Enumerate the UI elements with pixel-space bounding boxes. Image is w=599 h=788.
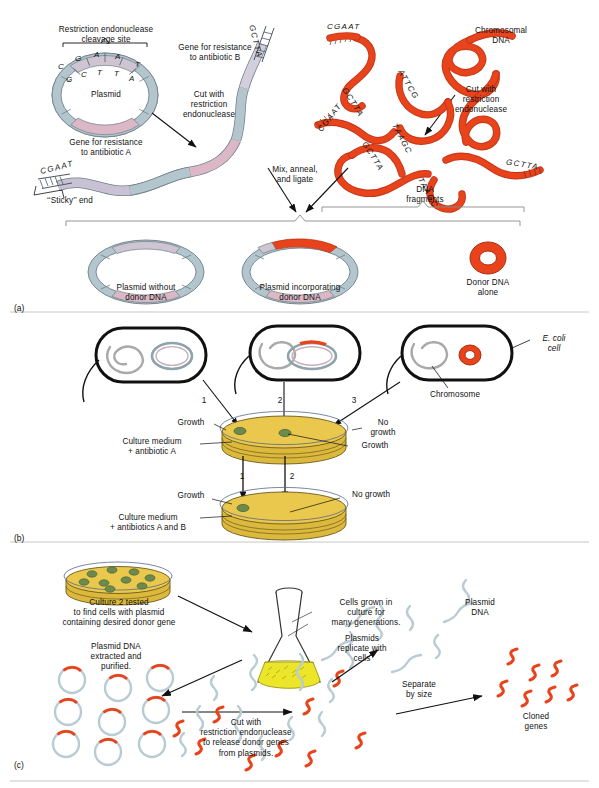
plasmid-dna-label: Plasmid DNA [452, 598, 508, 618]
cut-chromosome-label: Cut with restriction endonuclease [440, 85, 522, 116]
transfer-number-2: 2 [288, 472, 296, 482]
plasmid-circle [143, 697, 169, 723]
plasmid-extracted-label: Plasmid DNA extracted and purified. [62, 642, 170, 673]
plasmid-without-donor-label: Plasmid without donor DNA [98, 283, 194, 303]
base-bot-5: A [129, 74, 134, 83]
base-top-3: A [94, 50, 99, 59]
chromosome-label: Chromosome [418, 390, 492, 400]
donor-dna-alone-label: Donor DNA alone [452, 278, 524, 298]
cloned-genes-label: Cloned genes [508, 712, 564, 732]
transfer-number-1: 1 [238, 472, 246, 482]
plasmid-circle [55, 699, 81, 725]
cut-plasmid-label: Cut with restriction endonuclease [166, 90, 252, 121]
gene-a-label: Gene for resistance to antibiotic A [32, 138, 180, 158]
culture-flask [258, 588, 320, 688]
figure-canvas: (a) (b) (c) Restriction endonuclease cle… [0, 0, 599, 788]
ecoli-cell-label: E. coli cell [528, 334, 580, 354]
plate-a-no-growth-label: No growth [360, 418, 406, 438]
cloned-genes-cluster [498, 649, 577, 706]
base-bot-2: C [81, 70, 87, 79]
arrow-number-3: 3 [350, 396, 358, 406]
panel-label-c: (c) [14, 760, 24, 770]
sticky-end-label: ‘‘Sticky’’ end [30, 196, 110, 206]
plate-ab-no-growth-label: No growth [340, 490, 402, 500]
fragment-seq-1: CGAAT [327, 22, 360, 31]
products-bracket [66, 215, 520, 226]
plate-antibiotics-a-b [200, 487, 348, 540]
plate-antibiotic-a [200, 411, 362, 464]
flask-grown-label: Cells grown in culture for many generati… [322, 598, 410, 629]
ecoli-cell-2 [235, 326, 360, 394]
panel-label-b: (b) [14, 533, 24, 543]
mix-anneal-label: Mix, anneal, and ligate [255, 165, 335, 185]
plasmid-circle [105, 675, 131, 701]
base-top-5: T [135, 60, 140, 69]
plasmid-circle [99, 709, 125, 735]
base-bot-1: G [66, 75, 72, 84]
culture-2-label: Culture 2 tested to find cells with plas… [28, 598, 210, 629]
colony-3 [237, 504, 249, 511]
base-bot-4: T [114, 69, 119, 78]
ecoli-cell-3 [387, 326, 530, 394]
chromosomal-dna-label: Chromosomal DNA [452, 26, 550, 46]
purified-plasmids [53, 665, 173, 765]
plate-a-medium-label: Culture medium + antibiotic A [104, 437, 200, 457]
plasmid-diagram [52, 38, 158, 137]
base-top-2: G [75, 54, 81, 63]
separate-by-size-label: Separate by size [388, 680, 450, 700]
cut-release-label: Cut with restriction endonuclease to rel… [172, 718, 320, 759]
plasmid-circle [53, 731, 79, 757]
plasmid-with-donor-label: Plasmid incorporating donor DNA [240, 283, 360, 303]
plate-a-growth-right-label: Growth [352, 441, 398, 451]
panel-label-a: (a) [14, 303, 24, 313]
plate-a-growth-left-label: Growth [168, 418, 214, 428]
plate-ab-medium-label: Culture medium + antibiotics A and B [92, 513, 204, 533]
arrow-number-2: 2 [276, 396, 284, 406]
plasmids-replicate-label: Plasmids replicate with cells [322, 634, 402, 665]
donor-dna-alone [470, 242, 506, 274]
colony-1 [234, 427, 246, 434]
base-bot-3: T [97, 68, 102, 77]
plate-ab-growth-label: Growth [168, 491, 214, 501]
plasmid-circle [95, 739, 121, 765]
dna-fragments [316, 35, 541, 209]
base-top-1: C [58, 62, 64, 71]
plasmid-name-label: Plasmid [78, 90, 134, 100]
base-top-4: A [115, 52, 120, 61]
plasmid-circle [139, 731, 165, 757]
colony-2 [279, 429, 291, 436]
ecoli-cell-1 [83, 328, 206, 402]
arrow-number-1: 1 [200, 396, 208, 406]
